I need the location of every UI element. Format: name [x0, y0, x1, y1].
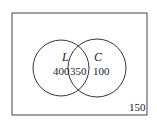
venn-diagram: L C 400 350 100 150 [0, 0, 157, 123]
set-c-label: C [94, 50, 103, 64]
universe-rectangle [12, 13, 147, 115]
set-l-label: L [61, 50, 69, 64]
set-l-only-count: 400 [53, 65, 70, 77]
set-c-only-count: 100 [93, 65, 110, 77]
universe-outside-count: 150 [129, 101, 146, 113]
intersection-count: 350 [70, 65, 87, 77]
